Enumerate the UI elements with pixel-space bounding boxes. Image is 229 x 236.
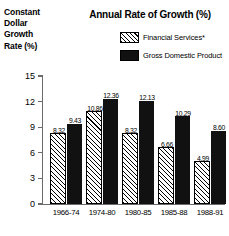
category-label-1985-88: 1985-88: [154, 209, 194, 217]
bar-financial-services-1988-91: 4.99: [194, 161, 210, 204]
category-label-1966-74: 1966-74: [46, 209, 86, 217]
bar-value-label: 8.32: [50, 127, 68, 135]
y-axis-title-line-3: Growth: [4, 29, 70, 40]
chart-legend: Financial Services* Gross Domestic Produ…: [120, 31, 222, 67]
y-axis-title: Constant Dollar Growth Rate (%): [4, 7, 70, 52]
bar-value-label: 8.60: [210, 124, 229, 132]
y-tick-label-3: 3: [30, 174, 35, 183]
y-tick-15: [38, 75, 43, 76]
bar-value-label: 9.43: [66, 117, 85, 125]
y-tick-label-9: 9: [30, 123, 35, 132]
y-tick-0: [38, 203, 43, 204]
y-axis-title-line-2: Dollar: [4, 18, 70, 29]
chart-title: Annual Rate of Growth (%): [74, 9, 226, 20]
bar-gross-domestic-product-1966-74: 9.43: [67, 124, 82, 204]
plot-area: 03691215 8.329.4310.8612.368.3212.136.66…: [42, 76, 224, 204]
bar-value-label: 6.66: [158, 141, 176, 149]
y-tick-label-6: 6: [30, 148, 35, 157]
bar-value-label: 12.13: [138, 94, 157, 102]
legend-item-financial-services: Financial Services*: [120, 31, 222, 43]
legend-label-gross-domestic-product: Gross Domestic Product: [143, 51, 222, 60]
bar-financial-services-1966-74: 8.32: [50, 133, 66, 204]
category-label-1980-85: 1980-85: [118, 209, 158, 217]
y-tick-12: [38, 101, 43, 102]
legend-swatch-solid-icon: [120, 50, 139, 61]
y-tick-9: [38, 127, 43, 128]
y-axis-title-line-1: Constant: [4, 7, 70, 18]
bar-financial-services-1980-85: 8.32: [122, 133, 138, 204]
bar-gross-domestic-product-1974-80: 12.36: [103, 99, 118, 204]
legend-swatch-hatched-icon: [120, 32, 139, 43]
growth-rate-bar-chart: Constant Dollar Growth Rate (%) Annual R…: [0, 0, 229, 236]
bar-value-label: 4.99: [194, 155, 212, 163]
y-tick-label-12: 12: [25, 97, 35, 106]
category-label-1974-80: 1974-80: [82, 209, 122, 217]
y-tick-label-15: 15: [25, 72, 35, 81]
bar-gross-domestic-product-1985-88: 10.29: [175, 116, 190, 204]
legend-label-financial-services: Financial Services*: [143, 33, 205, 42]
y-axis-title-line-4: Rate (%): [4, 41, 70, 52]
bar-gross-domestic-product-1980-85: 12.13: [139, 101, 154, 205]
y-axis-line: [42, 76, 43, 204]
bar-value-label: 10.86: [86, 105, 104, 113]
bar-value-label: 12.36: [102, 92, 121, 100]
bar-value-label: 10.29: [174, 110, 193, 118]
legend-item-gross-domestic-product: Gross Domestic Product: [120, 49, 222, 61]
x-axis-line: [42, 204, 225, 205]
bar-value-label: 8.32: [122, 127, 140, 135]
y-tick-label-0: 0: [30, 200, 35, 209]
y-tick-3: [38, 178, 43, 179]
bar-gross-domestic-product-1988-91: 8.60: [211, 131, 226, 204]
bar-financial-services-1974-80: 10.86: [86, 111, 102, 204]
category-label-1988-91: 1988-91: [190, 209, 229, 217]
bar-financial-services-1985-88: 6.66: [158, 147, 174, 204]
y-tick-6: [38, 152, 43, 153]
